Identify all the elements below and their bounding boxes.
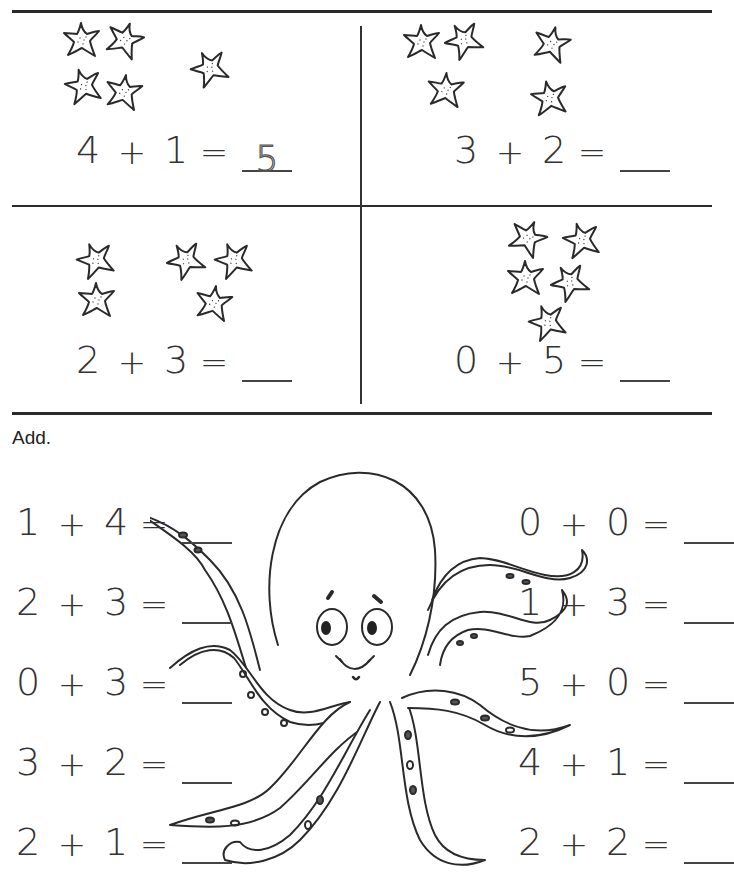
equation: 5 + 0 =: [512, 660, 734, 704]
answer-blank[interactable]: [242, 346, 292, 382]
starfish-icon: [527, 75, 573, 121]
starfish-icon: [77, 280, 117, 320]
instruction-label: Add.: [12, 427, 51, 449]
section-divider-rule: [12, 412, 712, 415]
equation: 2 + 3 =: [10, 580, 232, 624]
answer-blank[interactable]: [620, 346, 670, 382]
starfish-icon: [62, 20, 102, 60]
answer-blank[interactable]: [182, 828, 232, 864]
answer-blank[interactable]: [684, 748, 734, 784]
equation: 0 + 0 =: [512, 500, 734, 544]
answer-blank[interactable]: [182, 508, 232, 544]
answer-blank[interactable]: [182, 668, 232, 704]
equation: 4 + 1 =: [512, 740, 734, 784]
starfish-icon: [191, 280, 237, 326]
starfish-icon: [208, 234, 259, 285]
answer-blank[interactable]: [684, 828, 734, 864]
starfish-icon: [501, 211, 554, 264]
equation: 4 + 1 = 5: [70, 128, 292, 172]
answer-blank[interactable]: [684, 508, 734, 544]
starfish-icon: [402, 22, 442, 62]
starfish-icon: [101, 69, 147, 115]
equation: 1 + 3 =: [512, 580, 734, 624]
answer-blank[interactable]: [182, 588, 232, 624]
starfish-icon: [528, 20, 577, 69]
answer-blank[interactable]: 5: [242, 136, 292, 172]
starfish-icon: [424, 68, 467, 111]
equation: 3 + 2 =: [448, 128, 670, 172]
top-rule: [12, 10, 712, 13]
starfish-icon: [159, 233, 214, 288]
answer-blank[interactable]: [620, 136, 670, 172]
equation: 0 + 5 =: [448, 338, 670, 382]
answer-blank[interactable]: [182, 748, 232, 784]
starfish-icon: [506, 258, 546, 298]
starfish-icon: [437, 13, 492, 68]
starfish-icon: [99, 14, 150, 65]
starfish-icon: [183, 41, 236, 94]
answer-blank[interactable]: [684, 668, 734, 704]
equation: 1 + 4 =: [10, 500, 232, 544]
middle-rule: [12, 205, 712, 207]
answer-blank[interactable]: [684, 588, 734, 624]
equation: 0 + 3 =: [10, 660, 232, 704]
equation: 3 + 2 =: [10, 740, 232, 784]
equation: 2 + 1 =: [10, 820, 232, 864]
starfish-icon: [558, 216, 607, 265]
equation: 2 + 3 =: [70, 338, 292, 382]
vertical-divider: [360, 26, 362, 404]
starfish-icon: [70, 234, 121, 285]
equation: 2 + 2 =: [512, 820, 734, 864]
